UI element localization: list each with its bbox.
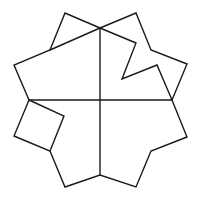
- star-diagram: [0, 0, 204, 200]
- top-right-notch: [100, 28, 172, 100]
- bottom-left-square: [29, 100, 64, 151]
